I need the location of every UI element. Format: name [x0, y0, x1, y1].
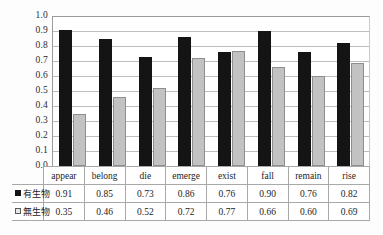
table-row-categories: appearbelongdieemergeexistfallremainrise — [12, 167, 370, 185]
y-tick-label: 0.6 — [4, 71, 48, 81]
bar-animate — [298, 52, 311, 166]
bar-inanimate — [153, 88, 166, 166]
legend-label-animate: 有生物 — [23, 189, 50, 199]
bar-group — [53, 17, 93, 166]
bar-group — [172, 17, 212, 166]
bar-animate — [337, 43, 350, 166]
data-table: appearbelongdieemergeexistfallremainrise… — [12, 166, 370, 221]
table-value-cell: 0.66 — [247, 203, 288, 221]
bar-group — [252, 17, 292, 166]
y-tick-label: 0.3 — [4, 116, 48, 126]
legend-swatch-icon-inanimate — [15, 208, 21, 214]
legend-item-animate: 有生物 — [12, 185, 44, 203]
table-value-cell: 0.76 — [207, 185, 248, 203]
y-tick-label: 0.2 — [4, 131, 48, 141]
y-tick-label: 0.9 — [4, 26, 48, 36]
table-category-cell: emerge — [166, 167, 207, 185]
legend-label-inanimate: 無生物 — [23, 207, 50, 217]
table-value-cell: 0.60 — [288, 203, 329, 221]
table-value-cell: 0.69 — [329, 203, 370, 221]
bar-animate — [99, 39, 112, 167]
chart-figure: 1.00.90.80.70.60.50.40.30.20.10.0 appear… — [0, 0, 383, 235]
bar-group — [212, 17, 252, 166]
table-category-cell: remain — [288, 167, 329, 185]
table-value-cell: 0.72 — [166, 203, 207, 221]
y-tick-label: 0.5 — [4, 86, 48, 96]
y-tick-label: 0.1 — [4, 146, 48, 156]
y-tick-label: 0.4 — [4, 101, 48, 111]
bar-inanimate — [351, 63, 364, 167]
table-value-cell: 0.77 — [207, 203, 248, 221]
bar-group — [133, 17, 173, 166]
table-value-cell: 0.46 — [84, 203, 125, 221]
bar-group — [331, 17, 371, 166]
table-value-cell: 0.85 — [84, 185, 125, 203]
bar-inanimate — [232, 51, 245, 167]
table-value-cell: 0.52 — [125, 203, 166, 221]
legend-swatch-icon-animate — [15, 190, 21, 196]
y-tick-label: 0.7 — [4, 56, 48, 66]
table-corner-cell — [12, 167, 44, 185]
table-category-cell: exist — [207, 167, 248, 185]
table-row-series-0: 有生物 0.910.850.730.860.760.900.760.82 — [12, 185, 370, 203]
table-value-cell: 0.76 — [288, 185, 329, 203]
table-category-cell: belong — [84, 167, 125, 185]
table-category-cell: appear — [44, 167, 85, 185]
bar-inanimate — [113, 97, 126, 166]
bar-group — [93, 17, 133, 166]
table-category-cell: fall — [247, 167, 288, 185]
bar-inanimate — [192, 58, 205, 166]
table-value-cell: 0.86 — [166, 185, 207, 203]
bar-animate — [258, 31, 271, 166]
y-tick-label: 1.0 — [4, 11, 48, 21]
bar-group — [292, 17, 332, 166]
y-tick-label: 0.8 — [4, 41, 48, 51]
table-row-series-1: 無生物 0.350.460.520.720.770.660.600.69 — [12, 203, 370, 221]
table-category-cell: die — [125, 167, 166, 185]
plot-area — [52, 16, 370, 166]
bar-animate — [139, 57, 152, 167]
bar-inanimate — [312, 76, 325, 166]
table-value-cell: 0.82 — [329, 185, 370, 203]
bar-animate — [218, 52, 231, 166]
bar-animate — [178, 37, 191, 166]
bar-animate — [59, 30, 72, 167]
table-category-cell: rise — [329, 167, 370, 185]
bar-inanimate — [73, 114, 86, 167]
table-value-cell: 0.90 — [247, 185, 288, 203]
bar-inanimate — [272, 67, 285, 166]
table-value-cell: 0.73 — [125, 185, 166, 203]
legend-item-inanimate: 無生物 — [12, 203, 44, 221]
